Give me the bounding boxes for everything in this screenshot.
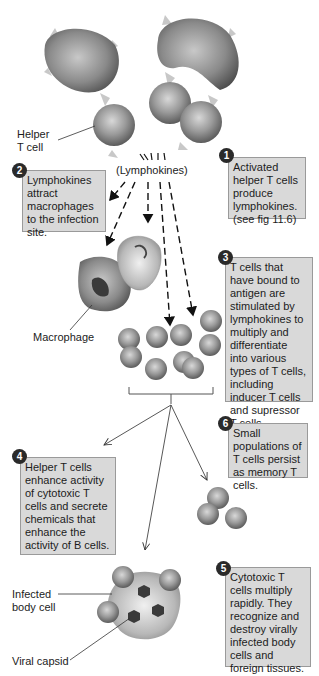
infected-body-cell	[97, 566, 181, 639]
step-1-box: Activated helper T cells produce lymphok…	[228, 157, 306, 219]
viral-capsid-label: Viral capsid	[12, 655, 69, 668]
step-1-text: Activated helper T cells produce lymphok…	[233, 161, 298, 225]
step-4-text: Helper T cells enhance activity of cytot…	[25, 461, 109, 551]
lymphokines-label: (Lymphokines)	[116, 164, 188, 177]
step-3-badge: 3	[218, 250, 233, 265]
step-4-badge: 4	[12, 449, 27, 464]
macrophage-label: Macrophage	[33, 331, 94, 344]
step-2-text: Lymphokines attract macrophages to the i…	[27, 174, 99, 238]
step-5-text: Cytotoxic T cells multiply rapidly. They…	[230, 571, 304, 674]
step-3-box: T cells that have bound to antigen are s…	[225, 257, 313, 402]
step-2-badge: 2	[12, 163, 27, 178]
step-6-box: Small populations of T cells persist as …	[228, 423, 308, 478]
antigen-presenting-cell-left	[44, 28, 119, 92]
step-5-badge: 5	[216, 561, 231, 576]
memory-t-cells	[197, 487, 247, 529]
helper-t-cell-label: Helper T cell	[17, 128, 49, 154]
step-3-text: T cells that have bound to antigen are s…	[230, 261, 306, 429]
step-6-badge: 6	[218, 416, 233, 431]
step-2-box: Lymphokines attract macrophages to the i…	[22, 170, 106, 232]
step-4-box: Helper T cells enhance activity of cytot…	[20, 457, 116, 555]
step-5-box: Cytotoxic T cells multiply rapidly. They…	[225, 567, 311, 667]
helper-t-cell-1	[93, 93, 135, 158]
infected-body-cell-label: Infected body cell	[12, 588, 55, 614]
step-1-badge: 1	[219, 148, 234, 163]
